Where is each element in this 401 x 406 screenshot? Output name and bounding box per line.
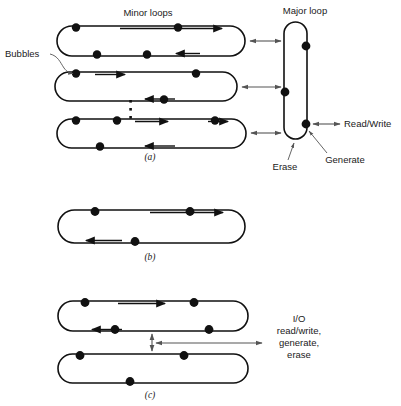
loop-c-bottom-track	[58, 354, 248, 383]
erase-label: Erase	[273, 161, 298, 172]
io-label-line-4: erase	[287, 349, 311, 360]
bubble	[72, 23, 80, 31]
bubble	[72, 116, 80, 124]
minor-loop-3	[57, 116, 246, 150]
bubble	[302, 120, 311, 129]
minor-loop-2-track	[55, 72, 237, 101]
minor-loop-1	[57, 23, 245, 58]
caption-b: (b)	[144, 252, 155, 263]
minor-loop-1-track	[57, 26, 245, 56]
vertical-ellipsis	[129, 100, 132, 119]
bubble	[186, 207, 195, 216]
minor-loops-label: Minor loops	[123, 7, 172, 18]
panel-a: Minor loops Major loop	[5, 5, 391, 172]
bubble	[113, 116, 121, 124]
generate-leader	[309, 131, 327, 153]
generate-label: Generate	[325, 154, 365, 165]
ellipsis-dot	[129, 100, 132, 103]
bubble-memory-figure: Minor loops Major loop	[0, 0, 401, 406]
bubble	[72, 69, 80, 77]
caption-a: (a)	[144, 152, 155, 163]
bubbles-leader	[50, 54, 73, 74]
bubble	[180, 351, 189, 360]
bubble	[281, 88, 290, 97]
bubbles-label: Bubbles	[5, 48, 40, 59]
io-label-line-3: generate,	[279, 337, 319, 348]
bubble	[96, 142, 104, 150]
erase-leader	[288, 143, 294, 160]
bubble	[302, 42, 311, 51]
bubble	[81, 298, 90, 307]
loop-c-top	[58, 298, 248, 334]
io-label: I/O read/write, generate, erase	[277, 313, 321, 360]
bubble	[111, 325, 120, 334]
panel-c: I/O read/write, generate, erase (c)	[58, 298, 321, 401]
bubble	[131, 237, 140, 246]
ellipsis-dot	[129, 108, 132, 111]
bubble	[143, 50, 151, 58]
major-loop-label: Major loop	[283, 5, 327, 16]
bubble	[211, 116, 219, 124]
bubble	[192, 69, 200, 77]
io-label-line-2: read/write,	[277, 325, 321, 336]
bubble	[91, 207, 100, 216]
caption-c: (c)	[145, 390, 156, 401]
io-label-line-1: I/O	[293, 313, 306, 324]
minor-loop-2	[55, 69, 237, 103]
major-loop	[281, 22, 311, 139]
bubble	[205, 325, 214, 334]
panel-b: (b)	[58, 207, 245, 263]
read-write-label: Read/Write	[344, 118, 391, 129]
loop-c-bottom	[58, 351, 248, 386]
bubble	[93, 50, 101, 58]
bubble	[190, 298, 199, 307]
bubble	[174, 23, 182, 31]
bubble	[126, 377, 135, 386]
loop-b-track	[58, 210, 245, 243]
bubble	[76, 351, 85, 360]
bubble	[160, 95, 168, 103]
